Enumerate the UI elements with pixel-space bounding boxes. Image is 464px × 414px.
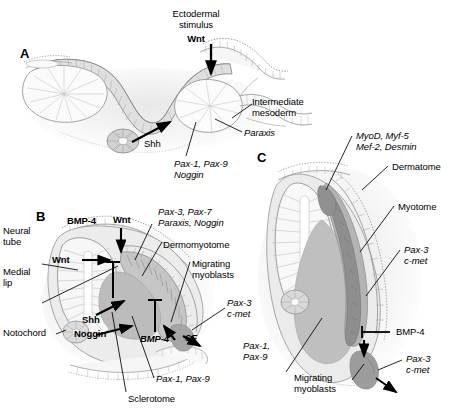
label-pax-noggin-a: Pax-1, Pax-9 Noggin bbox=[174, 158, 228, 180]
label-sf-b: SF bbox=[185, 332, 197, 343]
label-sclerotome-b: Sclerotome bbox=[128, 393, 175, 404]
label-myod-c: MyoD, Myf-5 Mef-2, Desmin bbox=[356, 130, 416, 152]
label-paraxis-a: Paraxis bbox=[244, 127, 275, 138]
label-myotome-c: Myotome bbox=[398, 201, 436, 212]
label-wnt-top-b: Wnt bbox=[113, 214, 131, 225]
label-pax3-cmet-b: Pax-3 c-met bbox=[227, 297, 251, 319]
panel-a-letter: A bbox=[20, 48, 29, 59]
label-shh-a: Shh bbox=[144, 138, 161, 149]
label-wnt-a: Wnt bbox=[172, 33, 220, 44]
label-medial-lip-b: Medial lip bbox=[3, 266, 30, 288]
label-pax3-cmet-top-c: Pax-3 c-met bbox=[404, 244, 428, 266]
label-pax3-pax7-b: Pax-3, Pax-7 Paraxis, Noggin bbox=[158, 206, 224, 228]
label-dermomyotome-b: Dermomyotome bbox=[163, 239, 229, 250]
label-dermatome-c: Dermatome bbox=[392, 161, 441, 172]
label-pax1-pax9-b: Pax-1, Pax-9 bbox=[156, 373, 210, 384]
label-ectodermal-stimulus: Ectodermal stimulus bbox=[152, 8, 240, 30]
label-bmp4-top-b: BMP-4 bbox=[67, 215, 96, 226]
label-bmp4-c: BMP-4 bbox=[396, 326, 425, 337]
label-pax3-cmet-bottom-c: Pax-3 c-met bbox=[406, 353, 430, 375]
label-bmp4-bottom-b: BMP-4 bbox=[140, 333, 169, 344]
label-pax1-pax9-c: Pax-1, Pax-9 bbox=[243, 340, 270, 362]
label-migrating-myoblasts-b: Migrating myoblasts bbox=[192, 258, 234, 280]
label-noggin-b: Noggin bbox=[74, 328, 106, 339]
panel-c-letter: C bbox=[257, 152, 266, 163]
panel-b-letter: B bbox=[36, 211, 45, 222]
label-notochord-b: Notochord bbox=[3, 327, 46, 338]
panel-c-art bbox=[258, 136, 422, 392]
figure-root: A Ectodermal stimulus Wnt Intermediate m… bbox=[0, 0, 464, 414]
label-migrating-myoblasts-c: Migrating myoblasts bbox=[294, 372, 336, 394]
label-intermediate-mesoderm: Intermediate mesoderm bbox=[252, 96, 304, 118]
label-neural-tube-b: Neural tube bbox=[3, 225, 30, 247]
label-shh-b: Shh bbox=[82, 314, 100, 325]
figure-canvas bbox=[0, 0, 464, 414]
migration-arrow-lower-c bbox=[376, 378, 396, 392]
label-wnt-left-b: Wnt bbox=[52, 254, 70, 265]
